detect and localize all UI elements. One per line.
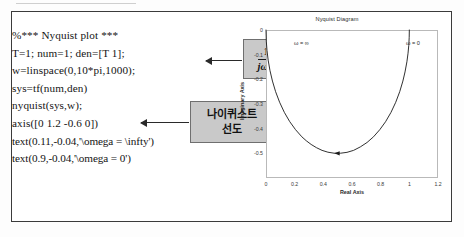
x-axis-label: Real Axis <box>266 189 438 195</box>
nyquist-plot: Nyquist Diagram 00.20.40.60.811.2 0-0.1-… <box>228 16 446 212</box>
plot-title: Nyquist Diagram <box>228 16 446 22</box>
y-tick-label: -0.1 <box>245 52 263 58</box>
top-divider <box>16 3 136 4</box>
y-tick-label: -0.5 <box>245 150 263 156</box>
direction-arrow-marker <box>334 151 339 155</box>
code-line-3: sys=tf(num,den) <box>12 80 240 98</box>
x-tick-label: 1.2 <box>434 181 441 187</box>
y-axis-label: Imaginary Axis <box>239 61 245 141</box>
plot-curve-layer <box>266 30 438 178</box>
y-tick-label: 0 <box>245 27 263 33</box>
code-line-7: text(0.9,-0.04,'\omega = 0') <box>12 150 240 168</box>
x-tick-label: 0.6 <box>348 181 355 187</box>
figure-root: %*** Nyquist plot *** T=1; num=1; den=[T… <box>0 0 464 237</box>
x-tick-label: 1 <box>408 181 411 187</box>
matlab-code-listing: %*** Nyquist plot *** T=1; num=1; den=[T… <box>12 27 240 168</box>
code-line-2: w=linspace(0,10*pi,1000); <box>12 62 240 80</box>
y-tick-label: -0.4 <box>245 126 263 132</box>
x-tick-label: 0.4 <box>320 181 327 187</box>
y-tick-label: -0.3 <box>245 101 263 107</box>
nyquist-curve <box>266 30 409 153</box>
annotation-omega-infinity: ω = ∞ <box>294 40 309 46</box>
x-tick-label: 0.8 <box>377 181 384 187</box>
callout-arrow-nyquist-label <box>141 122 189 123</box>
x-tick-label: 0.2 <box>291 181 298 187</box>
code-line-0: %*** Nyquist plot *** <box>12 27 240 45</box>
annotation-omega-zero: ω = 0 <box>406 40 420 46</box>
y-tick-label: -0.2 <box>245 76 263 82</box>
x-tick-label: 0 <box>265 181 268 187</box>
